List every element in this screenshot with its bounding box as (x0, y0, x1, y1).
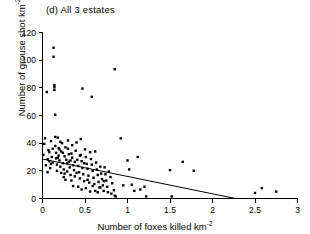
data-point (69, 159, 71, 161)
x-axis-title: Number of foxes killed km-2 (0, 221, 310, 232)
data-point (103, 190, 105, 192)
data-point (72, 185, 74, 187)
data-point (99, 165, 101, 167)
data-point (128, 168, 130, 170)
data-point (94, 190, 96, 192)
data-point (145, 195, 147, 197)
data-point (85, 187, 87, 189)
data-point (64, 179, 66, 181)
data-point (54, 145, 56, 147)
data-point (94, 150, 96, 152)
data-point (91, 185, 93, 187)
data-point (92, 177, 94, 179)
data-point (56, 163, 58, 165)
data-point (193, 170, 195, 172)
data-point (109, 176, 111, 178)
data-point (96, 168, 98, 170)
data-point (81, 167, 83, 169)
data-point (89, 190, 91, 192)
data-point (59, 165, 61, 167)
data-point (143, 186, 145, 188)
data-point (53, 84, 55, 86)
data-point (67, 148, 69, 150)
data-point (80, 138, 82, 140)
data-points-layer (42, 47, 277, 198)
data-point (57, 154, 59, 156)
data-point (91, 170, 93, 172)
data-point (131, 183, 133, 185)
data-point (48, 160, 50, 162)
data-point (101, 178, 103, 180)
data-point (111, 182, 113, 184)
data-point (66, 162, 68, 164)
data-point (70, 152, 72, 154)
data-point (57, 156, 59, 158)
y-axis-tick-label: 20 (27, 166, 37, 176)
data-point (59, 141, 61, 143)
data-point (103, 166, 105, 168)
y-axis-tick-label: 40 (27, 138, 37, 148)
data-point (77, 165, 79, 167)
page-title: (d) All 3 estates (46, 4, 115, 15)
data-point (182, 161, 184, 163)
x-axis-tick-label: 3 (295, 205, 300, 215)
data-point (84, 148, 86, 150)
data-point (102, 184, 104, 186)
data-point (46, 171, 48, 173)
y-axis-tick-label: 60 (27, 111, 37, 121)
data-point (44, 137, 46, 139)
data-point (67, 139, 69, 141)
data-point (74, 175, 76, 177)
data-point (66, 170, 68, 172)
y-axis-tick-label: 0 (31, 194, 36, 204)
data-point (114, 68, 116, 70)
data-point (54, 114, 56, 116)
data-point (87, 174, 89, 176)
data-point (110, 192, 112, 194)
data-point (86, 163, 88, 165)
data-point (104, 173, 106, 175)
data-point (126, 159, 128, 161)
data-point (275, 190, 277, 192)
data-point (95, 161, 97, 163)
data-point (65, 159, 67, 161)
data-point (79, 154, 81, 156)
tick-labels-layer: 00.511.522.53020406080100120 (22, 28, 300, 215)
plot-canvas: 00.511.522.53020406080100120 (0, 0, 310, 234)
data-point (85, 156, 87, 158)
x-axis-tick-label: 0.5 (79, 205, 91, 215)
data-point (52, 47, 54, 49)
data-point (105, 179, 107, 181)
data-point (103, 180, 105, 182)
data-point (69, 166, 71, 168)
data-point (53, 89, 55, 91)
data-point (97, 191, 99, 193)
y-axis-title-exponent: -2 (14, 0, 21, 4)
axes-layer (39, 33, 298, 203)
regression-line (43, 159, 236, 198)
data-point (100, 172, 102, 174)
data-point (108, 170, 110, 172)
data-point (62, 152, 64, 154)
data-point (89, 151, 91, 153)
data-point (82, 173, 84, 175)
data-point (97, 174, 99, 176)
x-axis-tick-label: 1 (125, 205, 130, 215)
data-point (80, 188, 82, 190)
data-point (50, 163, 52, 165)
data-point (83, 180, 85, 182)
data-point (86, 168, 88, 170)
data-point (73, 169, 75, 171)
data-point (133, 190, 135, 192)
x-axis-tick-label: 2 (210, 205, 215, 215)
data-point (58, 148, 60, 150)
data-point (51, 156, 53, 158)
data-point (88, 181, 90, 183)
data-point (122, 184, 124, 186)
data-point (63, 168, 65, 170)
x-axis-title-text: Number of foxes killed km (97, 221, 206, 232)
data-point (43, 143, 45, 145)
data-point (120, 137, 122, 139)
data-point (74, 150, 76, 152)
data-point (93, 183, 95, 185)
